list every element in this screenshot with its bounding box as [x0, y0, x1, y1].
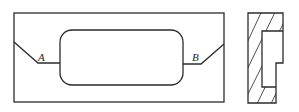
central-opening	[60, 30, 183, 85]
side-outer-outline	[248, 13, 283, 103]
right-notch-line	[183, 44, 224, 64]
side-view	[240, 2, 299, 110]
front-view: A B	[14, 13, 224, 102]
label-a: A	[37, 51, 45, 63]
side-inner-step	[262, 31, 283, 87]
diagram-canvas: A B	[0, 0, 299, 112]
left-notch-line	[14, 42, 60, 63]
label-b: B	[192, 51, 199, 63]
section-hatching	[240, 2, 299, 110]
